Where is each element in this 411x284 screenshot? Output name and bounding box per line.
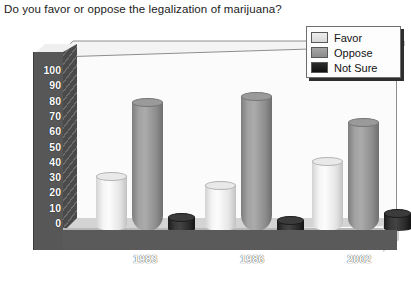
floor-front-face bbox=[63, 230, 397, 250]
legend-item-label: Not Sure bbox=[334, 62, 377, 74]
bar-body bbox=[241, 96, 272, 231]
y-tick-30: 30 bbox=[33, 172, 61, 182]
legend-swatch-icon bbox=[311, 47, 328, 58]
legend-swatch-icon bbox=[311, 32, 328, 43]
bar-body bbox=[348, 122, 379, 231]
y-tick-60: 60 bbox=[33, 126, 61, 136]
legend-swatch-icon bbox=[311, 62, 328, 73]
legend-item-label: Oppose bbox=[334, 47, 373, 59]
legend: FavorOpposeNot Sure bbox=[306, 26, 401, 78]
bar-top-ellipse bbox=[312, 157, 343, 166]
chart-screenshot: Do you favor or oppose the legalization … bbox=[0, 0, 411, 284]
x-tick-1986: 1986 bbox=[240, 253, 264, 265]
y-tick-90: 90 bbox=[33, 80, 61, 90]
y-tick-100: 100 bbox=[33, 65, 61, 75]
legend-item-not-sure[interactable]: Not Sure bbox=[311, 60, 396, 75]
bar-body bbox=[205, 185, 236, 231]
y-tick-0: 0 bbox=[33, 218, 61, 228]
bar-body bbox=[132, 102, 163, 231]
legend-item-label: Favor bbox=[334, 32, 362, 44]
bar-body bbox=[96, 176, 127, 231]
y-tick-40: 40 bbox=[33, 157, 61, 167]
bar-1983-favor bbox=[96, 176, 127, 231]
y-axis-hatched-face bbox=[63, 44, 77, 242]
bar-1983-oppose bbox=[132, 102, 163, 231]
bar-1986-oppose bbox=[241, 96, 272, 231]
y-tick-50: 50 bbox=[33, 142, 61, 152]
y-tick-70: 70 bbox=[33, 111, 61, 121]
bar-1986-favor bbox=[205, 185, 236, 231]
legend-item-oppose[interactable]: Oppose bbox=[311, 45, 396, 60]
bar-top-ellipse bbox=[384, 209, 411, 218]
y-tick-20: 20 bbox=[33, 187, 61, 197]
page-title: Do you favor or oppose the legalization … bbox=[4, 3, 282, 15]
bar-top-ellipse bbox=[96, 172, 127, 181]
bar-2002-not-sure bbox=[384, 213, 411, 231]
bar-2002-oppose bbox=[348, 122, 379, 231]
bar-2002-favor bbox=[312, 161, 343, 231]
x-tick-2002: 2002 bbox=[347, 253, 371, 265]
bar-1983-not-sure bbox=[168, 217, 195, 231]
y-tick-10: 10 bbox=[33, 203, 61, 213]
bar-body bbox=[312, 161, 343, 231]
legend-item-favor[interactable]: Favor bbox=[311, 30, 396, 45]
y-tick-80: 80 bbox=[33, 96, 61, 106]
x-tick-1983: 1983 bbox=[133, 253, 157, 265]
